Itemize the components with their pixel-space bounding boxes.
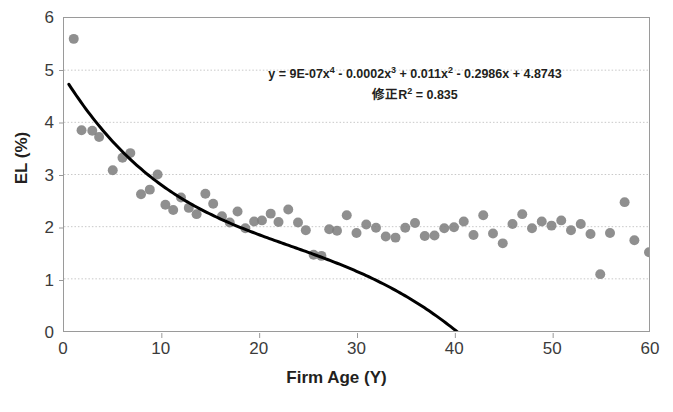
x-axis-tick-label: 10 bbox=[151, 340, 170, 357]
equation-term-b: - 0.0002x bbox=[335, 67, 391, 81]
x-axis-tick-label: 50 bbox=[543, 340, 562, 357]
x-axis-tick-label: 40 bbox=[445, 340, 464, 357]
x-axis-tick-label: 30 bbox=[347, 340, 366, 357]
equation-term-c: + 0.011x bbox=[396, 67, 448, 81]
x-axis-tick-label: 0 bbox=[58, 340, 67, 357]
y-axis-tick-label: 1 bbox=[8, 271, 54, 288]
equation-line-1: y = 9E-07x4 - 0.0002x3 + 0.011x2 - 0.298… bbox=[215, 64, 615, 85]
y-axis-tick-label: 6 bbox=[8, 9, 54, 26]
y-axis-tick-label: 3 bbox=[8, 166, 54, 183]
x-axis-tick-label: 20 bbox=[249, 340, 268, 357]
x-axis-tick-label: 60 bbox=[641, 340, 660, 357]
x-axis-tick-labels: 0102030405060 bbox=[63, 340, 650, 364]
y-axis-tick-label: 5 bbox=[8, 61, 54, 78]
y-axis-tick-label: 2 bbox=[8, 219, 54, 236]
chart-container: EL (%) 0123456 0102030405060 Firm Age (Y… bbox=[0, 0, 673, 412]
y-axis-tick-label: 0 bbox=[8, 324, 54, 341]
equation-term-a: y = 9E-07x bbox=[268, 67, 330, 81]
r-squared-label: 修正R bbox=[372, 88, 407, 102]
equation-line-2: 修正R2 = 0.835 bbox=[215, 85, 615, 106]
y-axis-tick-labels: 0123456 bbox=[0, 17, 54, 332]
x-axis-title: Firm Age (Y) bbox=[0, 368, 673, 388]
r-squared-value: = 0.835 bbox=[412, 88, 458, 102]
equation-annotation: y = 9E-07x4 - 0.0002x3 + 0.011x2 - 0.298… bbox=[215, 64, 615, 105]
equation-term-d: - 0.2986x + 4.8743 bbox=[453, 67, 562, 81]
y-axis-tick-label: 4 bbox=[8, 114, 54, 131]
